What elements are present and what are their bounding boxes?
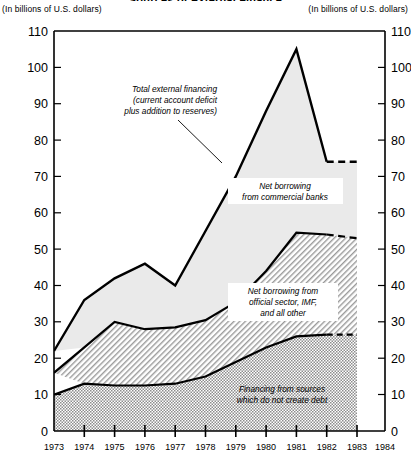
chart-root: Sources of External Finance (In billions… [0, 0, 411, 460]
x-tick-label-1976: 1976 [135, 442, 155, 452]
y-tick-label-left-40: 40 [34, 279, 48, 293]
y-tick-label-right-40: 40 [391, 279, 405, 293]
y-tick-label-left-10: 10 [34, 388, 48, 402]
y-tick-label-right-80: 80 [391, 134, 405, 148]
x-tick-label-1973: 1973 [44, 442, 64, 452]
x-axis-labels: 1973 1974 1975 1976 1977 1978 1979 1980 … [44, 442, 395, 452]
y-tick-label-right-90: 90 [391, 97, 405, 111]
annotation-total-line2: (current account deficit [133, 95, 218, 105]
annotation-official-sector: Net borrowing from official sector, IMF,… [228, 283, 338, 321]
y-tick-label-left-70: 70 [34, 170, 48, 184]
annotation-nondebt-line2: which do not create debt [237, 395, 328, 405]
y-tick-label-left-80: 80 [34, 134, 48, 148]
annotation-total-external-financing: Total external financing (current accoun… [123, 84, 222, 163]
annotation-banks-line2: from commercial banks [242, 192, 328, 202]
y-tick-label-left-20: 20 [34, 352, 48, 366]
x-tick-label-1982: 1982 [317, 442, 337, 452]
annotation-official-line1: Net borrowing from [248, 286, 319, 296]
annotation-total-line1: Total external financing [132, 84, 217, 94]
y-tick-label-right-110: 110 [391, 25, 411, 39]
y-tick-label-right-100: 100 [391, 61, 411, 75]
y-tick-label-right-60: 60 [391, 206, 405, 220]
x-tick-label-1975: 1975 [105, 442, 125, 452]
y-tick-label-right-0: 0 [391, 425, 398, 439]
y-tick-label-right-50: 50 [391, 243, 405, 257]
y-tick-label-left-110: 110 [28, 25, 48, 39]
annotation-nondebt-line1: Financing from sources [239, 384, 325, 394]
annotation-commercial-banks: Net borrowing from commercial banks [228, 178, 343, 204]
y-tick-label-right-10: 10 [391, 388, 405, 402]
y-tick-label-right-30: 30 [391, 315, 405, 329]
annotation-total-line3: plus addition to reserves) [123, 106, 217, 116]
chart-svg: 0 10 20 30 40 50 60 70 80 90 100 110 0 1… [0, 0, 411, 460]
annotation-official-line2: official sector, IMF, [249, 297, 317, 307]
y-tick-label-left-90: 90 [34, 97, 48, 111]
x-tick-label-1979: 1979 [226, 442, 246, 452]
annotation-total-leader-line [178, 120, 222, 163]
x-tick-label-1977: 1977 [165, 442, 185, 452]
x-tick-label-1984: 1984 [375, 442, 395, 452]
annotation-banks-line1: Net borrowing [259, 181, 311, 191]
y-tick-label-left-60: 60 [34, 206, 48, 220]
x-tick-label-1983: 1983 [347, 442, 367, 452]
y-tick-label-right-70: 70 [391, 170, 405, 184]
y-axis-labels-right: 0 10 20 30 40 50 60 70 80 90 100 110 [391, 25, 411, 439]
x-tick-label-1980: 1980 [256, 442, 276, 452]
x-tick-label-1981: 1981 [286, 442, 306, 452]
y-tick-label-left-100: 100 [27, 61, 48, 75]
y-axis-ticks-right [378, 67, 385, 394]
x-tick-label-1978: 1978 [195, 442, 215, 452]
y-tick-label-left-0: 0 [41, 425, 48, 439]
y-tick-label-right-20: 20 [391, 352, 405, 366]
annotation-official-line3: and all other [260, 308, 307, 318]
x-tick-label-1974: 1974 [74, 442, 94, 452]
annotation-nondebt-financing: Financing from sources which do not crea… [237, 384, 328, 405]
y-axis-labels-left: 0 10 20 30 40 50 60 70 80 90 100 110 [27, 25, 48, 439]
y-tick-label-left-30: 30 [34, 315, 48, 329]
y-tick-label-left-50: 50 [34, 243, 48, 257]
